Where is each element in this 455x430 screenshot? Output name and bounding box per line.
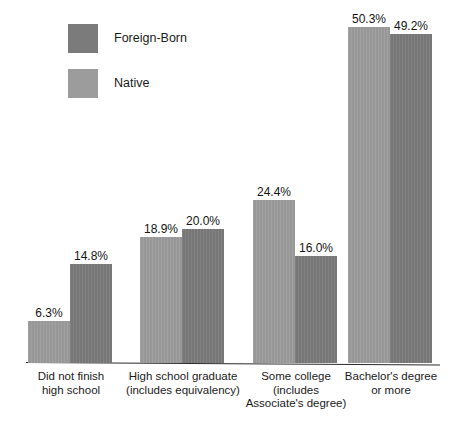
bar-wrap-g3-native: 50.3%: [348, 27, 390, 363]
bar-g2-foreign-born: [295, 256, 337, 363]
bar-chart: Foreign-Born Native 6.3% 14.8% Did not f…: [0, 0, 455, 430]
bar-wrap-g3-foreign-born: 49.2%: [390, 34, 432, 363]
bar-g0-native: [28, 321, 70, 363]
bar-value-g0-foreign-born: 14.8%: [74, 250, 108, 262]
bar-wrap-g1-native: 18.9%: [140, 237, 182, 363]
bar-wrap-g2-foreign-born: 16.0%: [295, 256, 337, 363]
category-label-3: Bachelor's degree or more: [338, 370, 444, 397]
bar-wrap-g0-native: 6.3%: [28, 321, 70, 363]
bar-value-g2-native: 24.4%: [257, 186, 291, 198]
bar-g2-native: [253, 200, 295, 363]
bar-wrap-g0-foreign-born: 14.8%: [70, 264, 112, 363]
bar-g1-native: [140, 237, 182, 363]
bar-value-g3-foreign-born: 49.2%: [394, 20, 428, 32]
bar-value-g3-native: 50.3%: [352, 13, 386, 25]
bar-g3-foreign-born: [390, 34, 432, 363]
bar-g3-native: [348, 27, 390, 363]
plot-area: 6.3% 14.8% Did not finish high school 18…: [0, 0, 455, 430]
bar-wrap-g2-native: 24.4%: [253, 200, 295, 363]
bar-value-g1-native: 18.9%: [144, 223, 178, 235]
bar-value-g2-foreign-born: 16.0%: [299, 242, 333, 254]
bar-g1-foreign-born: [182, 229, 224, 363]
bar-g0-foreign-born: [70, 264, 112, 363]
category-label-1: High school graduate (includes equivalen…: [118, 370, 248, 397]
bar-value-g0-native: 6.3%: [35, 307, 62, 319]
bar-wrap-g1-foreign-born: 20.0%: [182, 229, 224, 363]
category-label-0: Did not finish high school: [12, 370, 130, 397]
bar-value-g1-foreign-born: 20.0%: [186, 215, 220, 227]
